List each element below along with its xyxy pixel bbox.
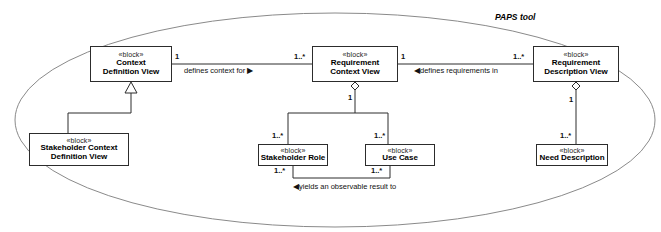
association-label-defines-requirements-in: ◀defines requirements in <box>414 66 498 75</box>
multiplicity-need-description-top: 1..* <box>560 131 571 140</box>
multiplicity-rcv-bottom: 1 <box>348 93 352 102</box>
association-label-yields-an-observable-result-to: ◀yields an observable result to <box>293 182 396 191</box>
multiplicity-stakeholder-role-top: 1..* <box>272 131 283 140</box>
multiplicity-cdv-right: 1 <box>175 52 179 61</box>
block-stakeholder-role[interactable]: «block» Stakeholder Role <box>258 144 328 166</box>
block-name-line-1: Need Description <box>540 154 605 163</box>
multiplicity-use-case-top: 1..* <box>374 131 385 140</box>
multiplicity-use-case-bottom: 1..* <box>371 166 382 175</box>
block-name-line-1: Use Case <box>382 154 418 163</box>
block-requirement-context-view[interactable]: «block» Requirement Context View <box>312 46 398 82</box>
block-requirement-description-view[interactable]: «block» Requirement Description View <box>533 46 619 82</box>
block-name-line-2: Definition View <box>103 68 159 77</box>
diagram-title: PAPS tool <box>495 12 535 22</box>
arrow-right-icon: ▶ <box>247 66 253 75</box>
multiplicity-rcv-left: 1..* <box>294 52 305 61</box>
block-name-line-1: Stakeholder Role <box>261 154 326 163</box>
aggregation-diamond-requirement-description-view-icon <box>572 82 580 90</box>
block-context-definition-view[interactable]: «block» Context Definition View <box>90 46 172 82</box>
multiplicity-rcv-right: 1 <box>401 52 405 61</box>
multiplicity-rdv-bottom: 1 <box>569 95 573 104</box>
association-label-defines-context-for: defines context for ▶ <box>184 66 253 75</box>
association-text: yields an observable result to <box>299 182 396 191</box>
diagram-canvas: PAPS tool «block» Context Definition Vie… <box>0 0 661 232</box>
diagram-connectors <box>0 0 661 232</box>
block-name-line-2: Description View <box>544 68 608 77</box>
block-stakeholder-context-definition-view[interactable]: «block» Stakeholder Context Definition V… <box>29 133 129 166</box>
block-use-case[interactable]: «block» Use Case <box>365 144 435 166</box>
multiplicity-stakeholder-role-bottom: 1..* <box>274 166 285 175</box>
association-text: defines context for <box>184 66 245 75</box>
block-need-description[interactable]: «block» Need Description <box>536 144 608 166</box>
generalization-triangle-icon <box>125 82 137 93</box>
association-text: defines requirements in <box>420 66 498 75</box>
aggregation-diamond-requirement-context-view-icon <box>351 82 359 90</box>
block-name-line-2: Context View <box>330 68 380 77</box>
multiplicity-rdv-left: 1..* <box>513 52 524 61</box>
block-name-line-2: Definition View <box>51 153 107 162</box>
